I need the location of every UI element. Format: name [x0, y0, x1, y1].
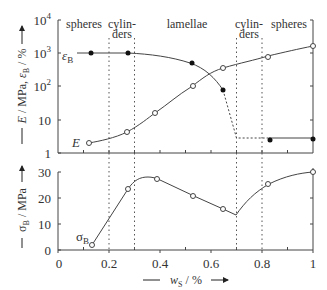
svg-text:30: 30: [38, 165, 51, 180]
svg-text:E / MPa, εB / %: E / MPa, εB / %: [15, 49, 31, 125]
phase-label-spheres-left: spheres: [66, 17, 102, 31]
top-panel: 104 103 102 10 1 E / MPa, εB / % spheres…: [15, 11, 316, 161]
bottom-phase-boundaries: [109, 153, 262, 250]
svg-text:10: 10: [38, 113, 51, 128]
phase-labels: spheres cylin- ders lamellae cylin- ders…: [66, 17, 307, 41]
svg-text:0: 0: [56, 256, 63, 271]
phase-label-spheres-right: spheres: [271, 17, 307, 31]
svg-text:20: 20: [38, 191, 51, 206]
svg-text:0.8: 0.8: [254, 256, 270, 271]
series-label-epsB: εB: [62, 48, 73, 65]
bottom-y-tick-labels: 30 20 10 0: [38, 165, 51, 258]
svg-text:0.4: 0.4: [152, 256, 169, 271]
top-y-ticks: [58, 20, 313, 153]
top-y-tick-labels: 104 103 102 10 1: [34, 11, 52, 161]
svg-text:104: 104: [34, 11, 52, 28]
svg-text:σB / MPa: σB / MPa: [15, 187, 31, 231]
svg-text:10: 10: [38, 217, 51, 232]
series-E: E: [71, 44, 316, 151]
series-label-sigmaB: σB: [76, 229, 89, 246]
top-y-axis-label: E / MPa, εB / %: [15, 26, 31, 144]
phase-label-cylinders-right-2: ders: [239, 27, 259, 41]
phase-label-cylinders-left-2: ders: [112, 27, 132, 41]
phase-label-lamellae: lamellae: [167, 17, 208, 31]
svg-text:1: 1: [310, 256, 317, 271]
svg-text:0.6: 0.6: [203, 256, 220, 271]
x-tick-labels: 0 0.2 0.4 0.6 0.8 1: [56, 256, 317, 271]
series-label-E: E: [71, 135, 80, 150]
svg-text:102: 102: [34, 77, 52, 94]
chart: 104 103 102 10 1 E / MPa, εB / % spheres…: [0, 0, 327, 290]
svg-text:103: 103: [34, 44, 52, 61]
series-epsB: εB: [62, 48, 316, 143]
svg-text:wS / %: wS / %: [170, 273, 202, 289]
svg-text:0.2: 0.2: [101, 256, 117, 271]
bottom-y-axis-label: σB / MPa: [15, 166, 31, 248]
svg-text:0: 0: [45, 243, 52, 258]
top-phase-boundaries: [109, 38, 262, 153]
svg-text:1: 1: [45, 146, 52, 161]
x-axis-label: wS / %: [143, 273, 228, 289]
series-sigmaB: σB: [76, 170, 316, 248]
bottom-panel: 30 20 10 0 0 0.2 0.4 0.6 0.8 1 wS / % σB…: [15, 153, 316, 289]
